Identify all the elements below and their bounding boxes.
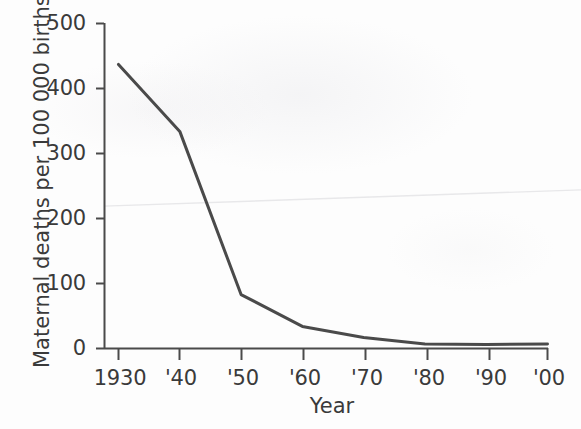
x-tick-label-2000: '00 xyxy=(533,366,565,390)
x-tick-label-1980: '80 xyxy=(413,366,445,390)
x-tick-label-1930: 1930 xyxy=(94,366,147,390)
x-tick-label-1990: '90 xyxy=(475,366,507,390)
x-tick-label-1950: '50 xyxy=(227,366,259,390)
line-chart-plot xyxy=(0,0,581,429)
x-axis-ticks xyxy=(119,348,548,360)
scan-artifact-line xyxy=(104,190,581,206)
chart-figure: 500 400 300 200 100 0 1930 '40 '50 '60 '… xyxy=(0,0,581,429)
y-axis-ticks xyxy=(96,24,104,349)
data-series-line xyxy=(119,64,548,344)
x-tick-label-1940: '40 xyxy=(165,366,197,390)
x-axis-title: Year xyxy=(310,394,354,418)
x-tick-label-1960: '60 xyxy=(289,366,321,390)
x-tick-label-1970: '70 xyxy=(351,366,383,390)
y-axis-title: Maternal deaths per 100 000 births xyxy=(30,28,54,368)
